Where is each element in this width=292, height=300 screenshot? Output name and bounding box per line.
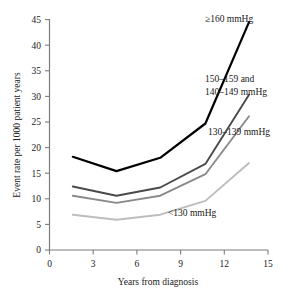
- y-tick-label-45: 45: [32, 15, 42, 25]
- annotation-140-149-line2: 140–149 mmHg: [205, 87, 267, 97]
- x-tick-labels: 0 3 6 9 12 15: [47, 259, 273, 269]
- annotation-130-139: 130–139 mmHg: [208, 127, 270, 137]
- y-tick-label-10: 10: [32, 194, 42, 204]
- y-tick-label-35: 35: [32, 66, 42, 76]
- series-line-150-159-140-149: [73, 95, 249, 196]
- chart-figure: 0 5 10 15 20 25 30 35 40 45 0 3 6 9 12 1…: [0, 0, 292, 300]
- annotation-under-130: <130 mmHg: [168, 208, 217, 218]
- y-tick-labels: 0 5 10 15 20 25 30 35 40 45: [32, 15, 42, 255]
- y-tick-label-5: 5: [36, 220, 41, 230]
- annotation-150-159-line1: 150–159 and: [205, 74, 255, 84]
- y-axis-title: Event rate per 1000 patient years: [12, 72, 22, 198]
- data-series-group: [73, 22, 249, 220]
- y-tick-label-30: 30: [32, 92, 42, 102]
- line-chart: 0 5 10 15 20 25 30 35 40 45 0 3 6 9 12 1…: [0, 0, 292, 300]
- y-tick-label-40: 40: [32, 41, 42, 51]
- x-tick-marks: [50, 250, 269, 255]
- x-tick-label-0: 0: [47, 259, 52, 269]
- y-tick-label-0: 0: [36, 245, 41, 255]
- y-tick-label-20: 20: [32, 143, 42, 153]
- annotation-group: ≥160 mmHg 150–159 and 140–149 mmHg 130–1…: [168, 14, 270, 218]
- y-tick-label-15: 15: [32, 169, 42, 179]
- annotation-over-160: ≥160 mmHg: [205, 14, 253, 24]
- x-tick-label-15: 15: [263, 259, 273, 269]
- x-tick-label-12: 12: [220, 259, 230, 269]
- y-tick-label-25: 25: [32, 117, 42, 127]
- y-tick-marks: [45, 20, 50, 250]
- x-axis-title: Years from diagnosis: [118, 277, 199, 287]
- x-tick-label-6: 6: [135, 259, 140, 269]
- x-tick-label-3: 3: [91, 259, 96, 269]
- x-tick-label-9: 9: [178, 259, 183, 269]
